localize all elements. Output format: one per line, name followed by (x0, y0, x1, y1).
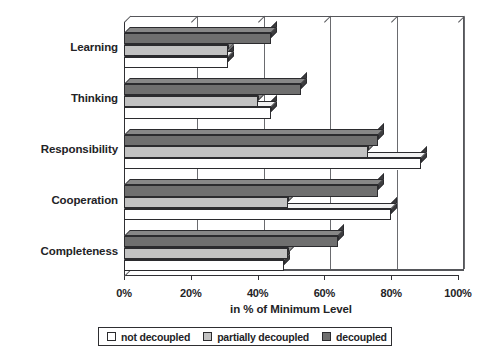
x-tick-40 (258, 275, 259, 280)
bar-front-face (124, 236, 338, 247)
bar-front-face (124, 33, 271, 44)
bar-front-face (124, 45, 228, 56)
bar-front-face (124, 209, 391, 220)
bar-cooperation-not-decoupled (124, 209, 391, 220)
legend-item-partially-decoupled[interactable]: partially decoupled (203, 331, 309, 343)
bar-front-face (124, 185, 378, 196)
bar-front-face (124, 146, 368, 157)
bar-learning-not-decoupled (124, 57, 228, 68)
x-tick-60 (324, 275, 325, 280)
x-axis-title: in % of Minimum Level (124, 303, 458, 315)
bar-responsibility-not-decoupled (124, 158, 421, 169)
x-tick-label-60: 60% (314, 287, 335, 299)
x-tick-label-80: 80% (380, 287, 401, 299)
x-tick-100 (458, 275, 459, 280)
legend-item-not-decoupled[interactable]: not decoupled (107, 331, 190, 343)
gridline-100 (464, 17, 465, 269)
bar-learning-decoupled (124, 33, 271, 44)
category-label-completeness: Completeness (41, 245, 118, 257)
category-axis-labels: LearningThinkingResponsibilityCooperatio… (0, 22, 118, 276)
bar-responsibility-partially-decoupled (124, 146, 368, 157)
legend-label: not decoupled (121, 331, 190, 343)
x-tick-20 (191, 275, 192, 280)
bar-learning-partially-decoupled (124, 45, 228, 56)
x-tick-label-20: 20% (180, 287, 201, 299)
bar-front-face (124, 158, 421, 169)
legend-label: partially decoupled (217, 331, 309, 343)
x-tick-label-100: 100% (444, 287, 471, 299)
x-tick-label-40: 40% (247, 287, 268, 299)
bar-thinking-partially-decoupled (124, 96, 258, 107)
bar-chart: LearningThinkingResponsibilityCooperatio… (0, 0, 489, 349)
bar-front-face (124, 107, 271, 118)
bar-thinking-not-decoupled (124, 107, 271, 118)
bar-front-face (124, 84, 301, 95)
bar-responsibility-decoupled (124, 135, 378, 146)
bar-completeness-decoupled (124, 236, 338, 247)
category-label-thinking: Thinking (71, 92, 118, 104)
chart-legend: not decoupledpartially decoupleddecouple… (98, 327, 392, 346)
bar-front-face (124, 260, 284, 271)
x-tick-label-0: 0% (116, 287, 132, 299)
bar-front-face (124, 57, 228, 68)
plot-area: 0%20%40%60%80%100% 31%31%44%44%40%53%89%… (124, 22, 458, 276)
light-gray-square-icon (203, 332, 212, 341)
x-tick-80 (391, 275, 392, 280)
bar-completeness-partially-decoupled (124, 248, 288, 259)
bar-cooperation-decoupled (124, 185, 378, 196)
x-axis-line (124, 275, 458, 276)
category-label-learning: Learning (70, 41, 118, 53)
legend-label: decoupled (336, 331, 387, 343)
bar-front-face (124, 96, 258, 107)
bar-completeness-not-decoupled (124, 260, 284, 271)
category-label-responsibility: Responsibility (41, 143, 118, 155)
white-square-icon (107, 332, 116, 341)
legend-item-decoupled[interactable]: decoupled (322, 331, 387, 343)
category-label-cooperation: Cooperation (51, 194, 118, 206)
dark-gray-square-icon (322, 332, 331, 341)
bar-thinking-decoupled (124, 84, 301, 95)
bar-front-face (124, 197, 288, 208)
bar-front-face (124, 248, 288, 259)
bar-cooperation-partially-decoupled (124, 197, 288, 208)
bar-front-face (124, 135, 378, 146)
